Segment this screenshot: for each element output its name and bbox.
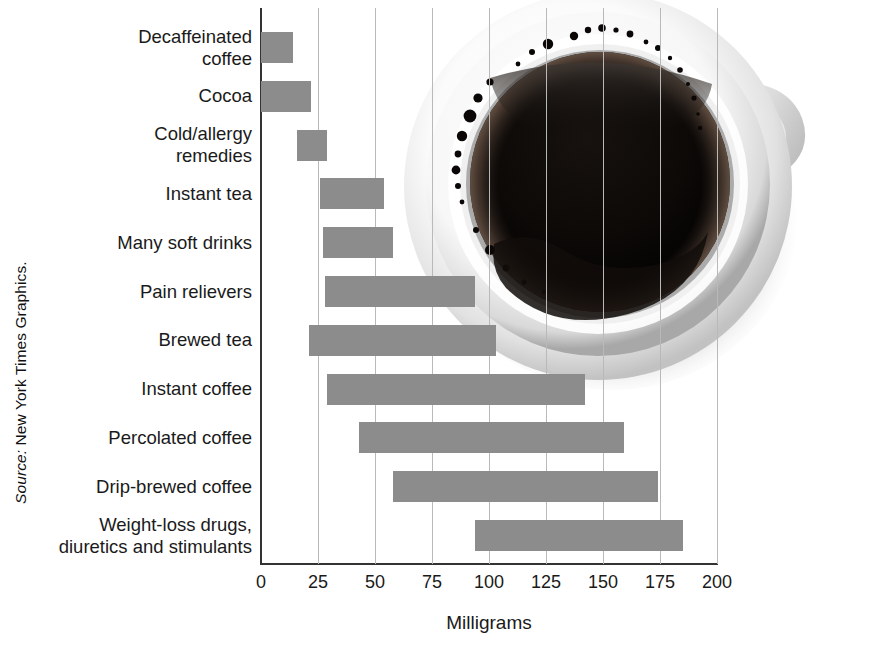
- category-label-line: Cocoa: [0, 85, 252, 107]
- category-label: Drip-brewed coffee: [0, 476, 252, 498]
- category-label-line: Instant coffee: [0, 378, 252, 400]
- x-tick-label: 175: [645, 572, 675, 593]
- category-label: Percolated coffee: [0, 427, 252, 449]
- x-tick-label: 50: [365, 572, 385, 593]
- category-axis-labels: DecaffeinatedcoffeeCocoaCold/allergyreme…: [0, 8, 252, 564]
- bar: [320, 178, 384, 209]
- category-label-line: Pain relievers: [0, 281, 252, 303]
- category-label-line: Drip-brewed coffee: [0, 476, 252, 498]
- category-label-line: diuretics and stimulants: [0, 536, 252, 558]
- category-label-line: Many soft drinks: [0, 232, 252, 254]
- bar: [475, 520, 682, 551]
- gridline: [318, 8, 319, 564]
- category-label: Many soft drinks: [0, 232, 252, 254]
- chart-canvas: Source: New York Times Graphics.: [0, 0, 880, 670]
- x-tick-label: 75: [422, 572, 442, 593]
- bar: [359, 422, 623, 453]
- category-label: Brewed tea: [0, 329, 252, 351]
- category-label: Instant tea: [0, 183, 252, 205]
- plot-area: [261, 8, 717, 564]
- category-label-line: Cold/allergy: [0, 123, 252, 145]
- category-label: Cocoa: [0, 85, 252, 107]
- gridline: [717, 8, 718, 564]
- category-label-line: remedies: [0, 145, 252, 167]
- gridline: [660, 8, 661, 564]
- bar: [261, 32, 293, 63]
- category-label: Cold/allergyremedies: [0, 123, 252, 167]
- bar: [327, 374, 585, 405]
- x-axis-title: Milligrams: [261, 612, 717, 634]
- x-tick-label: 200: [702, 572, 732, 593]
- x-tick-label: 25: [308, 572, 328, 593]
- bar: [393, 471, 657, 502]
- category-label: Decaffeinatedcoffee: [0, 26, 252, 70]
- category-label: Pain relievers: [0, 281, 252, 303]
- category-label-line: Percolated coffee: [0, 427, 252, 449]
- bar: [323, 227, 394, 258]
- category-label-line: Weight-loss drugs,: [0, 514, 252, 536]
- bar: [261, 81, 311, 112]
- bar: [297, 130, 327, 161]
- x-tick-label: 150: [588, 572, 618, 593]
- category-label: Instant coffee: [0, 378, 252, 400]
- category-label-line: coffee: [0, 48, 252, 70]
- category-label-line: Decaffeinated: [0, 26, 252, 48]
- x-tick-label: 0: [256, 572, 266, 593]
- x-tick-label: 125: [531, 572, 561, 593]
- category-label: Weight-loss drugs,diuretics and stimulan…: [0, 514, 252, 558]
- x-axis-tick-labels: 0255075100125150175200: [261, 572, 717, 598]
- bar: [309, 325, 496, 356]
- category-label-line: Instant tea: [0, 183, 252, 205]
- bar: [325, 276, 475, 307]
- x-tick-label: 100: [474, 572, 504, 593]
- category-label-line: Brewed tea: [0, 329, 252, 351]
